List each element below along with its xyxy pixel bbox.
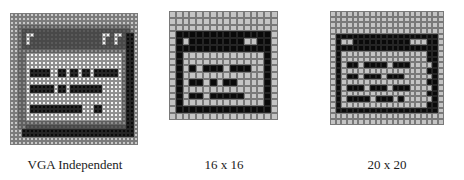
pixel-cell — [203, 59, 210, 66]
pixel-cell — [257, 52, 264, 59]
pixel-cell — [264, 31, 271, 38]
pixel-cell — [271, 93, 278, 100]
pixel-cell — [210, 86, 217, 93]
pixel-cell — [251, 79, 258, 86]
pixel-cell — [210, 45, 217, 52]
pixel-cell — [183, 25, 190, 32]
pixel-cell — [189, 31, 196, 38]
pixel-cell — [176, 106, 183, 113]
pixel-cell — [251, 11, 258, 18]
pixel-cell — [176, 31, 183, 38]
pixel-cell — [244, 45, 251, 52]
vga-independent-caption: VGA Independent — [10, 157, 140, 173]
pixel-cell — [203, 18, 210, 25]
pixel-cell — [271, 52, 278, 59]
pixel-cell — [237, 86, 244, 93]
pixel-cell — [264, 11, 271, 18]
20x20-icon-grid — [330, 11, 444, 125]
pixel-cell — [257, 86, 264, 93]
pixel-cell — [244, 52, 251, 59]
pixel-cell — [217, 79, 224, 86]
pixel-cell — [257, 93, 264, 100]
pixel-cell — [237, 11, 244, 18]
pixel-cell — [230, 106, 237, 113]
pixel-cell — [196, 72, 203, 79]
pixel-cell — [217, 38, 224, 45]
pixel-cell — [210, 79, 217, 86]
pixel-cell — [169, 93, 176, 100]
pixel-cell — [223, 38, 230, 45]
pixel-cell — [230, 113, 237, 120]
pixel-cell — [223, 52, 230, 59]
pixel-cell — [230, 93, 237, 100]
pixel-cell — [210, 106, 217, 113]
pixel-cell — [210, 25, 217, 32]
pixel-cell — [230, 31, 237, 38]
pixel-cell — [176, 65, 183, 72]
pixel-cell — [251, 52, 258, 59]
pixel-cell — [251, 113, 258, 120]
pixel-cell — [189, 93, 196, 100]
pixel-cell — [203, 65, 210, 72]
pixel-cell — [217, 72, 224, 79]
pixel-cell — [169, 86, 176, 93]
pixel-cell — [223, 99, 230, 106]
pixel-cell — [210, 99, 217, 106]
pixel-cell — [217, 86, 224, 93]
pixel-cell — [210, 52, 217, 59]
pixel-cell — [230, 59, 237, 66]
pixel-cell — [183, 52, 190, 59]
pixel-cell — [196, 113, 203, 120]
pixel-cell — [244, 25, 251, 32]
pixel-cell — [223, 72, 230, 79]
pixel-cell — [176, 52, 183, 59]
pixel-cell — [210, 11, 217, 18]
pixel-cell — [189, 59, 196, 66]
pixel-cell — [257, 72, 264, 79]
pixel-cell — [223, 79, 230, 86]
pixel-cell — [244, 38, 251, 45]
pixel-cell — [264, 106, 271, 113]
pixel-cell — [230, 52, 237, 59]
pixel-cell — [271, 59, 278, 66]
pixel-cell — [237, 31, 244, 38]
pixel-cell — [223, 31, 230, 38]
pixel-cell — [237, 59, 244, 66]
pixel-cell — [230, 18, 237, 25]
pixel-cell — [223, 59, 230, 66]
pixel-cell — [237, 93, 244, 100]
pixel-cell — [217, 45, 224, 52]
pixel-cell — [210, 72, 217, 79]
pixel-cell — [169, 99, 176, 106]
pixel-cell — [169, 106, 176, 113]
pixel-cell — [183, 79, 190, 86]
pixel-cell — [176, 86, 183, 93]
pixel-cell — [257, 79, 264, 86]
pixel-cell — [251, 45, 258, 52]
pixel-cell — [169, 45, 176, 52]
pixel-cell — [251, 65, 258, 72]
pixel-cell — [196, 38, 203, 45]
pixel-cell — [244, 93, 251, 100]
pixel-cell — [210, 38, 217, 45]
pixel-cell — [237, 106, 244, 113]
pixel-cell — [271, 18, 278, 25]
pixel-cell — [196, 25, 203, 32]
pixel-cell — [251, 38, 258, 45]
pixel-cell — [217, 65, 224, 72]
pixel-cell — [203, 106, 210, 113]
pixel-cell — [217, 25, 224, 32]
pixel-cell — [264, 86, 271, 93]
pixel-cell — [271, 79, 278, 86]
pixel-cell — [183, 113, 190, 120]
pixel-cell — [230, 99, 237, 106]
pixel-cell — [244, 31, 251, 38]
pixel-cell — [210, 113, 217, 120]
pixel-cell — [196, 11, 203, 18]
pixel-cell — [264, 79, 271, 86]
pixel-cell — [223, 106, 230, 113]
pixel-cell — [264, 99, 271, 106]
vga-independent-icon-grid — [10, 13, 138, 145]
pixel-cell — [183, 106, 190, 113]
pixel-cell — [217, 93, 224, 100]
